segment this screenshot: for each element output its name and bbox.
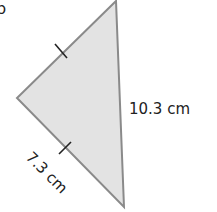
triangle	[17, 1, 124, 207]
triangle-diagram: b 10.3 cm 7.3 cm	[0, 0, 217, 212]
right-side-label: 10.3 cm	[129, 100, 190, 118]
lower-left-side-label: 7.3 cm	[22, 148, 71, 197]
figure-marker: b	[0, 0, 6, 18]
